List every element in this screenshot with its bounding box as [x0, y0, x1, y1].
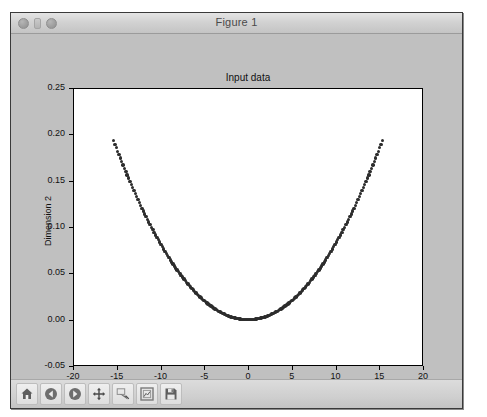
- back-arrow-icon: [44, 387, 58, 401]
- figure-canvas[interactable]: Input data Dimension 2 Dimension 1 -20-1…: [11, 34, 462, 379]
- y-tick-label: 0.00: [25, 314, 65, 324]
- back-button[interactable]: [40, 383, 62, 405]
- zoom-rect-button[interactable]: [112, 383, 134, 405]
- y-tick-label: 0.15: [25, 175, 65, 185]
- home-icon: [20, 387, 34, 401]
- plot-title: Input data: [73, 72, 423, 83]
- x-tick-mark: [248, 366, 249, 370]
- zoom-rectangle-icon: [116, 387, 130, 401]
- data-point: [366, 176, 369, 179]
- data-point: [360, 189, 363, 192]
- data-point: [352, 207, 355, 210]
- x-tick-mark: [336, 366, 337, 370]
- y-tick-label: 0.05: [25, 267, 65, 277]
- x-tick-mark: [379, 366, 380, 370]
- window-title-bar[interactable]: Figure 1: [11, 13, 462, 34]
- data-point: [364, 180, 367, 183]
- home-button[interactable]: [16, 383, 38, 405]
- data-point: [356, 198, 359, 201]
- x-tick-mark: [73, 366, 74, 370]
- data-point: [354, 204, 357, 207]
- y-tick-mark: [69, 88, 73, 89]
- data-point: [371, 163, 374, 166]
- data-point: [377, 150, 380, 153]
- forward-button[interactable]: [64, 383, 86, 405]
- y-tick-mark: [69, 181, 73, 182]
- x-tick-mark: [423, 366, 424, 370]
- configure-subplots-button[interactable]: [136, 383, 158, 405]
- data-point: [368, 170, 371, 173]
- figure-window: Figure 1 Input data Dimension 2 Dimensio…: [10, 12, 463, 409]
- plot-axes[interactable]: [73, 88, 423, 366]
- y-tick-label: 0.25: [25, 82, 65, 92]
- y-tick-mark: [69, 134, 73, 135]
- y-tick-label: -0.05: [25, 360, 65, 370]
- save-button[interactable]: [160, 383, 182, 405]
- forward-arrow-icon: [68, 387, 82, 401]
- data-point: [367, 173, 370, 176]
- floppy-disk-icon: [164, 387, 178, 401]
- data-point: [379, 143, 382, 146]
- window-title: Figure 1: [11, 16, 462, 28]
- subplot-config-icon: [140, 387, 154, 401]
- move-cross-icon: [92, 387, 106, 401]
- pan-button[interactable]: [88, 383, 110, 405]
- x-tick-mark: [204, 366, 205, 370]
- x-tick-mark: [117, 366, 118, 370]
- y-tick-label: 0.20: [25, 128, 65, 138]
- y-tick-mark: [69, 273, 73, 274]
- matplotlib-toolbar: [11, 379, 462, 408]
- x-tick-mark: [161, 366, 162, 370]
- y-tick-mark: [69, 320, 73, 321]
- y-tick-mark: [69, 366, 73, 367]
- data-point: [343, 226, 346, 229]
- y-tick-label: 0.10: [25, 221, 65, 231]
- y-tick-mark: [69, 227, 73, 228]
- data-point: [340, 231, 343, 234]
- x-tick-mark: [292, 366, 293, 370]
